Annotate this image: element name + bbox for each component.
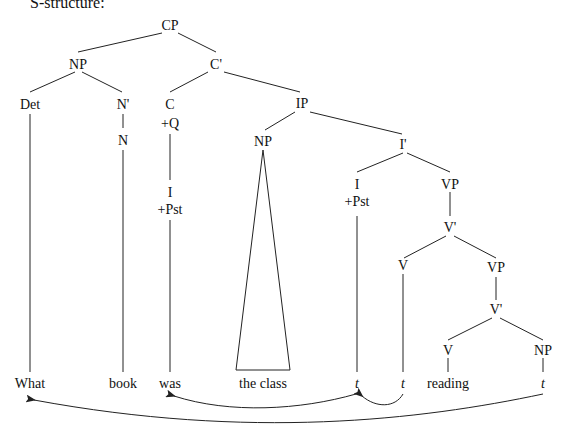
node-c: C (165, 97, 174, 112)
tree-leaves: What book was the class t t reading t (15, 376, 546, 391)
node-i-upper: I (168, 185, 173, 200)
leaf-book: book (109, 376, 137, 391)
section-header: S-structure: (30, 0, 105, 11)
node-v-bar-upper: V' (444, 220, 457, 235)
node-v-upper: V (398, 258, 408, 273)
node-vp-lower: VP (487, 260, 505, 275)
tree-edges (30, 33, 543, 372)
tree-nodes: CP NP C' Det N' N C +Q I +Pst IP NP I' I… (20, 18, 552, 358)
node-det: Det (20, 97, 40, 112)
node-n-bar: N' (117, 97, 130, 112)
node-np-subject: NP (254, 134, 272, 149)
node-np: NP (69, 57, 87, 72)
leaf-reading: reading (427, 376, 469, 391)
node-i: I (355, 177, 360, 192)
arrow-v-to-i (362, 394, 403, 405)
node-i-upper-feature: +Pst (157, 202, 182, 217)
leaf-what: What (15, 376, 45, 391)
leaf-trace-object: t (541, 376, 546, 391)
node-i-bar: I' (399, 137, 406, 152)
arrow-object-to-spec-cp (34, 394, 543, 423)
node-vp-upper: VP (441, 177, 459, 192)
node-v-lower: V (443, 343, 453, 358)
movement-arrows (34, 394, 543, 423)
node-c-feature: +Q (161, 116, 179, 131)
node-cp: CP (161, 18, 178, 33)
node-ip: IP (296, 96, 309, 111)
node-np-object: NP (534, 343, 552, 358)
node-i-feature: +Pst (344, 194, 369, 209)
syntax-tree: S-structure: CP NP C' Det N' (0, 0, 567, 431)
node-v-bar-lower: V' (490, 302, 503, 317)
node-n: N (118, 133, 128, 148)
leaf-trace-v: t (401, 376, 406, 391)
leaf-trace-i: t (355, 376, 360, 391)
arrow-i-to-c (174, 394, 356, 408)
node-c-bar: C' (210, 57, 222, 72)
leaf-was: was (159, 376, 181, 391)
leaf-the-class: the class (239, 376, 287, 391)
